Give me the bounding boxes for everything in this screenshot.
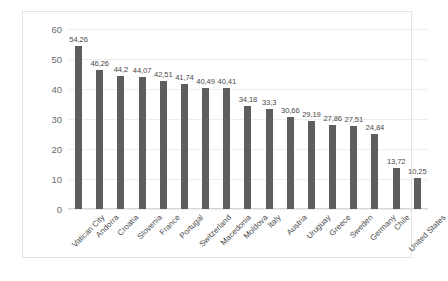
y-axis-tick-label: 0 [57,204,62,215]
bar-slot: 42,51 [153,29,174,209]
bar-slot: 29,19 [301,29,322,209]
x-label-slot: Uruguay [301,210,322,281]
x-label-slot: Vatican City [68,210,89,281]
x-label-slot: Macedonia [216,210,237,281]
x-label-slot: Sweden [343,210,364,281]
x-label-slot: United States [407,210,428,281]
x-label-slot: Andorra [89,210,110,281]
bar-value-label: 40,41 [218,77,237,86]
bar-value-label: 42,51 [154,70,173,79]
bar[interactable] [202,88,209,209]
bar[interactable] [223,88,230,209]
bar-slot: 40,41 [216,29,237,209]
bar-value-label: 10,25 [408,167,427,176]
bar[interactable] [181,84,188,209]
bar-value-label: 34,18 [239,95,258,104]
bar-slot: 33,3 [259,29,280,209]
x-label-slot: Moldova [237,210,258,281]
bar-value-label: 44,07 [133,66,152,75]
x-axis-labels: Vatican CityAndorraCroatiaSloveniaFrance… [68,210,428,281]
x-label-slot: Portugal [174,210,195,281]
bar-slot: 34,18 [237,29,258,209]
bar[interactable] [350,126,357,209]
bar-slot: 27,86 [322,29,343,209]
x-label-slot: Germany [364,210,385,281]
bar-value-label: 27,51 [345,115,364,124]
bar[interactable] [371,134,378,209]
y-axis-tick-label: 50 [51,54,62,65]
y-axis-tick-label: 20 [51,144,62,155]
bar[interactable] [96,70,103,209]
bar-value-label: 44,2 [114,65,128,74]
bar-slot: 40,49 [195,29,216,209]
bar[interactable] [117,76,124,209]
chart-frame: 0102030405060 54,2646,2644,244,0742,5141… [22,11,412,258]
bar-value-label: 41,74 [175,73,194,82]
bar-value-label: 40,49 [196,77,215,86]
bar[interactable] [266,109,273,209]
bar-slot: 13,72 [386,29,407,209]
bar[interactable] [75,46,82,209]
bar[interactable] [393,168,400,209]
x-label-slot: Italy [259,210,280,281]
bar-slot: 30,66 [280,29,301,209]
x-label-slot: France [153,210,174,281]
x-label-slot: Chile [386,210,407,281]
bar[interactable] [160,81,167,209]
y-axis-tick-label: 30 [51,114,62,125]
bar[interactable] [287,117,294,209]
bar-value-label: 29,19 [302,110,321,119]
bar-series: 54,2646,2644,244,0742,5141,7440,4940,413… [68,29,428,209]
bar-slot: 44,2 [110,29,131,209]
x-label-slot: Greece [322,210,343,281]
y-axis-tick-label: 10 [51,174,62,185]
bar-value-label: 27,86 [323,114,342,123]
x-label-slot: Croatia [110,210,131,281]
bar-value-label: 46,26 [90,59,109,68]
bar[interactable] [329,125,336,209]
bar-slot: 27,51 [343,29,364,209]
bar[interactable] [244,106,251,209]
bar-slot: 44,07 [132,29,153,209]
bar-value-label: 30,66 [281,106,300,115]
bar[interactable] [414,178,421,209]
bar-slot: 10,25 [407,29,428,209]
bar-value-label: 24,84 [366,123,385,132]
x-label-slot: Austria [280,210,301,281]
bar-value-label: 33,3 [262,98,276,107]
bar-slot: 54,26 [68,29,89,209]
bar[interactable] [308,121,315,209]
bar[interactable] [139,77,146,209]
y-axis-tick-label: 40 [51,84,62,95]
bar-value-label: 54,26 [69,35,88,44]
bar-slot: 46,26 [89,29,110,209]
x-label-slot: Switzerland [195,210,216,281]
plot-area: 0102030405060 54,2646,2644,244,0742,5141… [68,29,428,209]
x-axis-category-label: United States [407,213,447,253]
bar-value-label: 13,72 [387,157,406,166]
x-label-slot: Slovenia [132,210,153,281]
y-axis-tick-label: 60 [51,24,62,35]
bar-slot: 24,84 [364,29,385,209]
bar-slot: 41,74 [174,29,195,209]
